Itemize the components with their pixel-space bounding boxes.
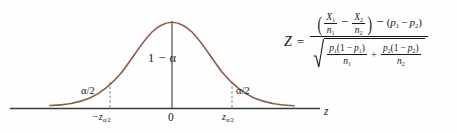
right-critical-value-subscript: α/2 — [226, 116, 234, 123]
x1-term: X1 — [324, 12, 337, 23]
n1-term: n1 — [325, 24, 337, 35]
n2-denominator: n2 — [395, 55, 407, 66]
denominator-plus-sign: + — [371, 49, 377, 60]
statistics-figure: 1 − α α/2 α/2 −zα/2 0 zα/2 z Z = ( X1 n1… — [0, 0, 457, 133]
x2-over-n2-fraction: X2 n2 — [352, 12, 365, 35]
square-root-expression: p1(1−p1) n1 + p2(1−p2) n2 — [313, 38, 425, 68]
x1-over-n1-fraction: X1 n1 — [324, 12, 337, 35]
p1-numerator: p1(1−p1) — [327, 43, 367, 54]
numerator-close-paren: ) — [367, 16, 372, 32]
left-tail-area-label: α/2 — [81, 86, 95, 97]
right-tail-area-label: α/2 — [236, 86, 250, 97]
left-critical-value-text: −z — [92, 111, 103, 122]
origin-label: 0 — [168, 112, 174, 124]
formula-numerator: ( X1 n1 − X2 n2 )−(p1−p2) — [313, 12, 425, 36]
p2-numerator: p2(1−p2) — [381, 43, 421, 54]
confidence-area-label: 1 − α — [148, 52, 177, 65]
test-statistic-formula: Z = ( X1 n1 − X2 n2 )−(p1−p2) — [284, 12, 428, 72]
formula-equals-sign: = — [297, 34, 304, 50]
x2-term: X2 — [352, 12, 365, 23]
numerator-outer-minus: − — [376, 14, 383, 29]
n1-denominator: n1 — [341, 55, 353, 66]
formula-main-fraction: ( X1 n1 − X2 n2 )−(p1−p2) — [310, 12, 428, 72]
variance-term-1: p1(1−p1) n1 — [327, 43, 367, 66]
formula-statistic-symbol: Z — [284, 34, 292, 50]
formula-denominator: p1(1−p1) n1 + p2(1−p2) n2 — [310, 37, 428, 72]
n2-term: n2 — [353, 24, 365, 35]
numerator-inner-minus: − — [341, 14, 348, 29]
right-critical-value-label: zα/2 — [222, 112, 234, 122]
numerator-open-paren: ( — [317, 16, 322, 32]
left-critical-value-subscript: α/2 — [103, 116, 111, 123]
left-critical-value-label: −zα/2 — [92, 112, 111, 122]
radicand: p1(1−p1) n1 + p2(1−p2) n2 — [324, 38, 425, 68]
variance-term-2: p2(1−p2) n2 — [381, 43, 421, 66]
population-proportion-difference: (p1−p2) — [387, 16, 422, 28]
radical-sign-icon — [313, 38, 324, 68]
x-axis-label: z — [324, 106, 328, 118]
